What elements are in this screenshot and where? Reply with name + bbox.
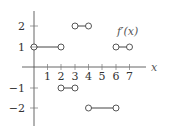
segment-3-4 [72, 23, 92, 29]
x-tick-label: 1 [44, 70, 51, 83]
x-tick-label: 7 [126, 70, 133, 83]
y-tick-labels: 2 1 −1 −2 [9, 20, 25, 115]
function-label: f′(x) [116, 25, 138, 38]
y-tick-label: −1 [9, 82, 25, 95]
segment-0-2 [30, 44, 64, 50]
y-tick-label: 1 [18, 41, 25, 54]
x-axis-label: x [151, 61, 158, 74]
x-tick-labels: 1 2 3 4 5 6 7 [44, 70, 133, 83]
x-tick-label: 2 [58, 70, 65, 83]
y-tick-label: 2 [18, 20, 25, 33]
segment-6-7 [113, 44, 133, 50]
x-tick-label: 6 [113, 70, 120, 83]
x-tick-label: 5 [99, 70, 106, 83]
segment-4-6 [86, 105, 120, 111]
y-tick-label: −2 [9, 102, 25, 115]
x-tick-label: 4 [85, 70, 92, 83]
piecewise-derivative-chart: 1 2 3 4 5 6 7 x 2 1 −1 −2 f′(x) [0, 0, 172, 137]
x-tick-label: 3 [72, 70, 79, 83]
segment-2-3 [58, 85, 78, 91]
